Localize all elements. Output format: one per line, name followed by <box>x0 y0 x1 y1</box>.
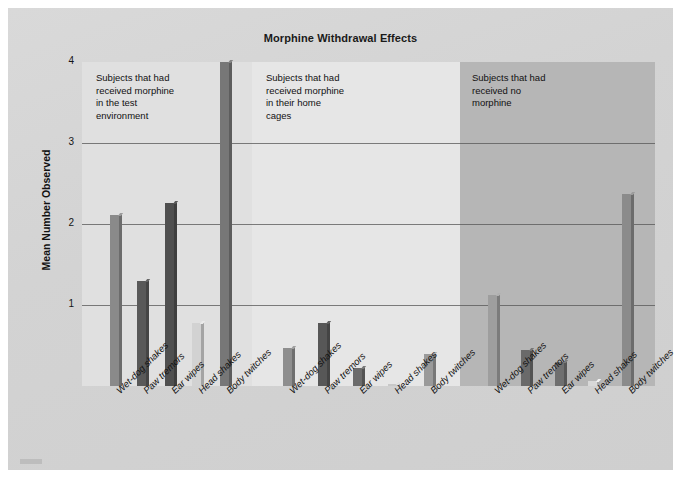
page-corner-mark <box>20 459 42 464</box>
bar-face <box>283 348 292 386</box>
chart-figure: Morphine Withdrawal Effects Mean Number … <box>0 0 681 485</box>
panel-annotation-1: Subjects that had received morphine in t… <box>96 72 174 122</box>
gridline-3 <box>82 143 655 144</box>
panel-annotation-2: Subjects that had received morphine in t… <box>266 72 344 122</box>
bar-side <box>201 323 204 386</box>
bar-face <box>110 215 119 386</box>
y-tick-label-2: 2 <box>52 217 74 228</box>
x-axis-labels: Wet-dog shakesPaw tremorsEar wipesHead s… <box>82 388 655 485</box>
bar-side <box>229 62 232 386</box>
y-axis-label: Mean Number Observed <box>40 120 52 300</box>
y-tick-label-3: 3 <box>52 136 74 147</box>
bar <box>220 62 232 386</box>
bar-face <box>220 62 229 386</box>
bar-side <box>497 295 500 386</box>
plot-area: Subjects that had received morphine in t… <box>82 62 655 386</box>
bar <box>110 215 122 386</box>
scanned-page: Morphine Withdrawal Effects Mean Number … <box>8 8 673 470</box>
chart-title: Morphine Withdrawal Effects <box>8 32 673 44</box>
bar-face <box>488 295 497 386</box>
bar-side <box>119 215 122 386</box>
y-tick-label-4: 4 <box>52 55 74 66</box>
y-tick-label-1: 1 <box>52 298 74 309</box>
bar <box>488 295 500 386</box>
panel-annotation-3: Subjects that had received no morphine <box>472 72 545 110</box>
